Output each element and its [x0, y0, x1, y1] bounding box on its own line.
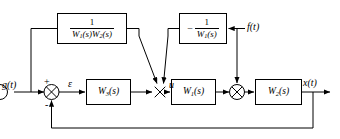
block-controller-label: W3(s)	[87, 80, 131, 105]
signal-label-disturbance: f(t)	[247, 22, 259, 32]
block-diagram: g(t) ε u f(t) x(t) + - 1 W1(s)W2(s) − 1	[0, 0, 340, 139]
feedforward-g-denominator: W1(s)W2(s)	[70, 29, 114, 39]
block-feedforward-g-label: 1 W1(s)W2(s)	[58, 14, 127, 44]
sign-minus-error-summer: -	[45, 100, 48, 110]
block-plant1-label: W1(s)	[172, 80, 216, 105]
diagram-lines	[0, 0, 340, 139]
feedforward-f-numerator: 1	[195, 18, 219, 28]
feedforward-f-denominator: W1(s)	[195, 29, 219, 39]
block-feedforward-f-label: − 1 W1(s)	[180, 14, 227, 44]
signal-label-input: g(t)	[2, 80, 16, 90]
signal-label-error: ε	[68, 79, 72, 89]
block-plant2-label: W2(s)	[256, 80, 302, 105]
feedforward-g-numerator: 1	[70, 18, 114, 28]
signal-label-output: x(t)	[303, 78, 317, 88]
feedforward-f-sign: −	[187, 24, 193, 34]
sign-plus-error-summer: +	[44, 77, 50, 87]
